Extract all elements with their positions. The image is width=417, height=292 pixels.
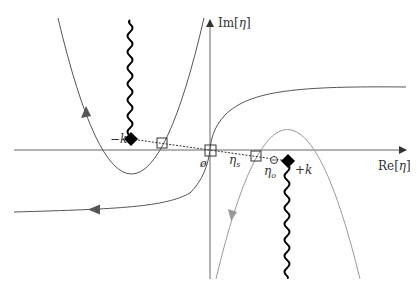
y-axis-label: Im[η] [218, 16, 251, 30]
plus-k-diamond [281, 154, 295, 168]
x-axis-label: Re[η] [378, 159, 411, 173]
left-parabola-arrow-icon [81, 106, 91, 118]
branch-cut-minus-k [128, 20, 133, 136]
contour-diagram: Im[η] Re[η] −k +k ø ηs ηo [0, 0, 417, 292]
origin-label: ø [199, 157, 207, 170]
hyperbola-arrow-icon [88, 205, 100, 215]
eta-s-label: ηs [229, 153, 240, 169]
minus-k-label: −k [110, 132, 127, 146]
plus-k-label: +k [295, 163, 312, 177]
branch-cut-plus-k [285, 164, 290, 278]
eta-o-label: ηo [264, 164, 276, 180]
